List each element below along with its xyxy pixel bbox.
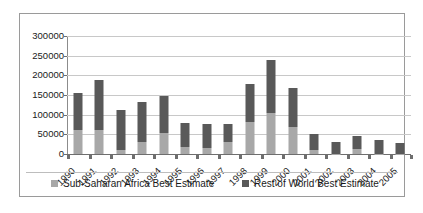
legend-item-sub-saharan-africa[interactable]: Sub-Saharan Africa Best Estimate <box>51 178 214 189</box>
bar-slot <box>282 36 304 154</box>
bar-slot <box>325 36 347 154</box>
bar-segment-sub-saharan-africa <box>245 122 254 154</box>
bar-segment-rest-of-world <box>245 84 254 122</box>
x-axis-tick-mark <box>410 155 413 159</box>
bar-segment-sub-saharan-africa <box>138 142 147 154</box>
y-axis-tick-label: 250000 <box>20 51 64 60</box>
chart-legend: Sub-Saharan Africa Best Estimate Rest of… <box>20 178 406 194</box>
bar-segment-rest-of-world <box>73 93 82 130</box>
bar-segment-sub-saharan-africa <box>181 147 190 154</box>
bar-slot <box>368 36 390 154</box>
legend-label: Rest of World Best Estimate <box>254 178 379 189</box>
x-axis-tick-mark <box>218 155 221 159</box>
bar-segment-sub-saharan-africa <box>353 149 362 154</box>
bar-slot <box>304 36 326 154</box>
bar-segment-rest-of-world <box>288 88 297 128</box>
y-axis-labels: 050000100000150000200000250000300000 <box>20 36 64 155</box>
bar-slot <box>261 36 283 154</box>
x-axis-tick-mark <box>325 155 328 159</box>
bar-segment-sub-saharan-africa <box>116 150 125 154</box>
bar-segment-sub-saharan-africa <box>95 130 104 154</box>
x-axis-tick-mark <box>368 155 371 159</box>
bar-slot <box>132 36 154 154</box>
y-axis-tick-label: 50000 <box>20 129 64 138</box>
bar-segment-sub-saharan-africa <box>310 150 319 154</box>
legend-separator <box>26 172 398 173</box>
bar-segment-sub-saharan-africa <box>73 130 82 154</box>
x-axis-tick-mark <box>239 155 242 159</box>
bar-segment-rest-of-world <box>138 102 147 143</box>
bar-segment-rest-of-world <box>202 124 211 148</box>
y-axis-tick-label: 150000 <box>20 90 64 99</box>
bar-slot <box>89 36 111 154</box>
chart-frame: 050000100000150000200000250000300000 199… <box>19 13 405 197</box>
x-axis-tick-mark <box>347 155 350 159</box>
x-axis-tick-mark <box>304 155 307 159</box>
bar-slot <box>218 36 240 154</box>
plot-area <box>67 36 411 155</box>
bar-slot <box>110 36 132 154</box>
x-axis-tick-mark <box>282 155 285 159</box>
bar-segment-rest-of-world <box>116 110 125 151</box>
bar-slot <box>175 36 197 154</box>
bar-slot <box>153 36 175 154</box>
legend-swatch-icon <box>51 180 58 187</box>
bar-segment-rest-of-world <box>331 142 340 153</box>
bar-slot <box>390 36 412 154</box>
bar-segment-rest-of-world <box>224 124 233 142</box>
bar-slot <box>67 36 89 154</box>
bar-segment-rest-of-world <box>374 140 383 154</box>
y-axis-tick-label: 0 <box>20 149 64 158</box>
bar-segment-rest-of-world <box>396 143 405 153</box>
bar-segment-rest-of-world <box>353 136 362 149</box>
legend-label: Sub-Saharan Africa Best Estimate <box>63 178 214 189</box>
bar-segment-sub-saharan-africa <box>288 127 297 154</box>
bar-segment-sub-saharan-africa <box>267 113 276 154</box>
x-axis-tick-mark <box>67 155 70 159</box>
bar-slot <box>196 36 218 154</box>
x-axis-tick-mark <box>132 155 135 159</box>
legend-item-rest-of-world[interactable]: Rest of World Best Estimate <box>242 178 379 189</box>
x-axis-tick-mark <box>261 155 264 159</box>
x-axis-tick-mark <box>196 155 199 159</box>
bar-slot <box>239 36 261 154</box>
bar-segment-sub-saharan-africa <box>202 148 211 154</box>
x-axis-tick-mark <box>110 155 113 159</box>
bar-segment-rest-of-world <box>267 60 276 112</box>
bar-segment-rest-of-world <box>95 80 104 130</box>
bar-segment-sub-saharan-africa <box>224 142 233 154</box>
bar-segment-sub-saharan-africa <box>159 133 168 154</box>
x-axis-tick-mark <box>390 155 393 159</box>
x-axis-tick-mark <box>175 155 178 159</box>
bar-segment-rest-of-world <box>310 134 319 151</box>
bar-segment-rest-of-world <box>181 123 190 147</box>
legend-swatch-icon <box>242 180 249 187</box>
x-axis-tick-mark <box>89 155 92 159</box>
y-axis-tick-label: 100000 <box>20 110 64 119</box>
bar-slot <box>347 36 369 154</box>
y-axis-tick-label: 200000 <box>20 70 64 79</box>
y-axis-tick-label: 300000 <box>20 31 64 40</box>
x-axis-tick-mark <box>153 155 156 159</box>
bar-segment-rest-of-world <box>159 96 168 133</box>
